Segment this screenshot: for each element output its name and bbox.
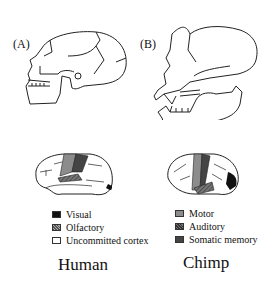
legend-item-motor: Motor [175, 207, 258, 220]
visual-swatch-icon [52, 211, 61, 218]
legend-item-uncommitted-cortex: Uncommitted cortex [52, 234, 148, 247]
legend-item-olfactory: Olfactory [52, 221, 148, 234]
motor-swatch-icon [175, 210, 184, 217]
somatic-memory-swatch-icon [175, 236, 184, 243]
human-brain-map [32, 150, 118, 200]
olfactory-swatch-icon [52, 224, 61, 231]
legend-item-somatic-memory: Somatic memory [175, 233, 258, 246]
chimp-skull-illustration [150, 20, 260, 120]
legend-item-visual: Visual [52, 208, 148, 221]
auditory-swatch-icon [175, 223, 184, 230]
legend-right: Motor Auditory Somatic memory [175, 207, 258, 246]
species-label-human: Human [58, 255, 108, 275]
species-label-chimp: Chimp [183, 253, 229, 273]
legend-left: Visual Olfactory Uncommitted cortex [52, 208, 148, 247]
human-skull-illustration [24, 28, 130, 108]
legend-item-auditory: Auditory [175, 220, 258, 233]
chimp-brain-map [164, 150, 244, 202]
uncommitted-cortex-swatch-icon [52, 237, 61, 244]
